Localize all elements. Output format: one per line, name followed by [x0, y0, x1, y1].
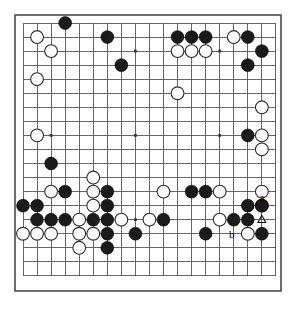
white-stone[interactable]: [157, 185, 170, 198]
star-point: [134, 134, 137, 137]
point-label-a: a: [259, 191, 264, 203]
board-background: [0, 0, 296, 314]
black-stone[interactable]: [241, 213, 254, 226]
go-board-canvas[interactable]: ab: [0, 0, 296, 314]
black-stone[interactable]: [199, 31, 212, 44]
black-stone[interactable]: [87, 213, 100, 226]
black-stone[interactable]: [157, 213, 170, 226]
black-stone[interactable]: [185, 31, 198, 44]
white-stone[interactable]: [45, 227, 58, 240]
white-stone[interactable]: [73, 213, 86, 226]
star-point: [134, 218, 137, 221]
go-board-figure: ab: [0, 0, 296, 314]
white-stone[interactable]: [227, 31, 240, 44]
white-stone[interactable]: [87, 171, 100, 184]
white-stone[interactable]: [255, 129, 268, 142]
black-stone[interactable]: [101, 31, 114, 44]
black-stone[interactable]: [199, 227, 212, 240]
star-point: [134, 50, 137, 53]
black-stone[interactable]: [241, 199, 254, 212]
black-stone[interactable]: [59, 17, 72, 30]
black-stone[interactable]: [185, 185, 198, 198]
point-label-b: b: [229, 228, 235, 240]
white-stone[interactable]: [87, 185, 100, 198]
white-stone[interactable]: [171, 87, 184, 100]
white-stone[interactable]: [87, 199, 100, 212]
black-stone[interactable]: [129, 227, 142, 240]
white-stone[interactable]: [31, 73, 44, 86]
black-stone[interactable]: [31, 213, 44, 226]
black-stone[interactable]: [31, 199, 44, 212]
white-stone[interactable]: [255, 101, 268, 114]
white-stone[interactable]: [73, 227, 86, 240]
black-stone[interactable]: [255, 227, 268, 240]
black-stone[interactable]: [241, 129, 254, 142]
black-stone[interactable]: [255, 45, 268, 58]
star-point: [50, 134, 53, 137]
black-stone[interactable]: [241, 59, 254, 72]
white-stone[interactable]: [45, 45, 58, 58]
black-stone[interactable]: [45, 157, 58, 170]
white-stone[interactable]: [87, 227, 100, 240]
black-stone[interactable]: [101, 241, 114, 254]
black-stone[interactable]: [115, 59, 128, 72]
star-point: [218, 50, 221, 53]
white-stone[interactable]: [171, 45, 184, 58]
white-stone[interactable]: [241, 227, 254, 240]
white-stone[interactable]: [31, 227, 44, 240]
black-stone[interactable]: [17, 199, 30, 212]
white-stone[interactable]: [45, 185, 58, 198]
star-point: [218, 134, 221, 137]
white-stone[interactable]: [213, 213, 226, 226]
black-stone[interactable]: [227, 213, 240, 226]
white-stone[interactable]: [17, 227, 30, 240]
black-stone[interactable]: [199, 185, 212, 198]
white-stone[interactable]: [213, 185, 226, 198]
black-stone[interactable]: [101, 227, 114, 240]
black-stone[interactable]: [241, 31, 254, 44]
white-stone[interactable]: [255, 143, 268, 156]
white-stone[interactable]: [185, 45, 198, 58]
white-stone[interactable]: [115, 213, 128, 226]
black-stone[interactable]: [59, 213, 72, 226]
black-stone[interactable]: [45, 213, 58, 226]
black-stone[interactable]: [101, 213, 114, 226]
white-stone[interactable]: [199, 45, 212, 58]
black-stone[interactable]: [101, 199, 114, 212]
black-stone[interactable]: [59, 185, 72, 198]
black-stone[interactable]: [101, 185, 114, 198]
white-stone[interactable]: [31, 31, 44, 44]
white-stone[interactable]: [73, 241, 86, 254]
white-stone[interactable]: [143, 213, 156, 226]
black-stone[interactable]: [171, 31, 184, 44]
white-stone[interactable]: [31, 129, 44, 142]
